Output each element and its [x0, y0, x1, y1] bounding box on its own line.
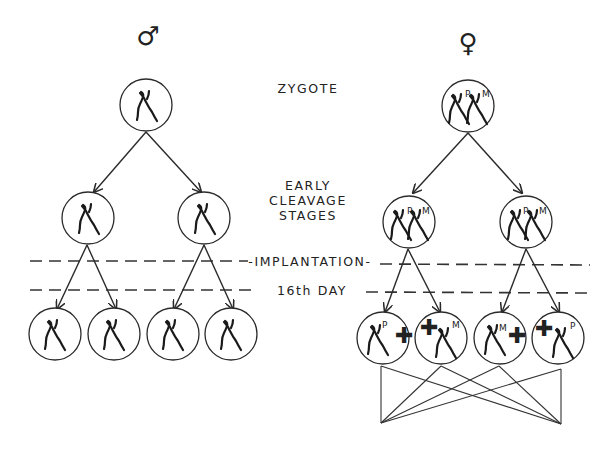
male-cleavage-cell [178, 192, 230, 244]
maternal-label: M [482, 89, 490, 99]
stage-label-cleavage: CLEAVAGE [269, 193, 347, 208]
maternal-label: M [499, 323, 507, 333]
implantation-line-right [380, 264, 590, 265]
stage-label-early: EARLY [285, 178, 331, 193]
inactive-x-cross-icon: ✚ [420, 315, 438, 340]
day16-line-right [366, 292, 590, 293]
paternal-label: P [570, 321, 576, 331]
stage-label-16th-day: 16th DAY [277, 283, 347, 298]
x-inactivation-diagram: ♂ ♀ ZYGOTE EARLY CLEAVAGE STAGES -IMPLAN… [0, 0, 615, 455]
maternal-label: M [422, 206, 430, 216]
male-zygote-cell [120, 79, 172, 131]
paternal-label: P [382, 320, 388, 330]
paternal-label: P [407, 206, 413, 216]
paternal-label: P [465, 89, 471, 99]
inactive-x-cross-icon: ✚ [395, 323, 413, 348]
stage-label-stages: STAGES [279, 208, 337, 223]
maternal-label: M [539, 206, 547, 216]
paternal-label: P [523, 206, 529, 216]
mosaic-convergence-lines [381, 366, 561, 424]
inactive-x-cross-icon: ✚ [508, 323, 526, 348]
stage-label-zygote: ZYGOTE [278, 81, 339, 96]
male-cleavage-cell [62, 192, 114, 244]
male-lineage [29, 79, 257, 360]
maternal-label: M [452, 320, 460, 330]
inactive-x-cross-icon: ✚ [535, 316, 553, 341]
stage-label-implantation: -IMPLANTATION- [248, 254, 371, 269]
female-symbol-icon: ♀ [458, 28, 477, 58]
female-lineage: P M P M P M P ✚ ✚ M M ✚ ✚ P [357, 80, 584, 424]
male-symbol-icon: ♂ [136, 21, 159, 51]
